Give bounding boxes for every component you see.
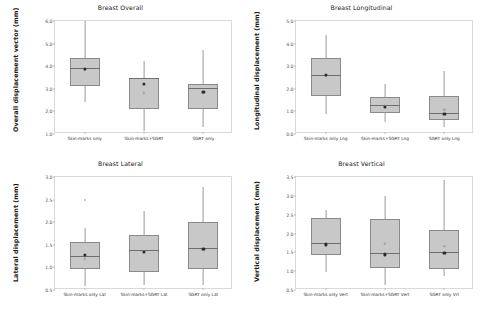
y-tick-mark: [53, 111, 55, 112]
y-tick-mark: [294, 88, 296, 89]
x-tick-label: SGRT only Vrt: [430, 292, 460, 297]
y-tick-label: 3.0: [45, 86, 52, 91]
y-tick-label: 2.0: [286, 231, 293, 236]
x-tick-label: Skin-marks+SGRT Lng: [361, 136, 409, 141]
panel-breast-longitudinal: Breast Longitudinal Longitudinal displac…: [241, 4, 482, 156]
y-tick-mark: [53, 290, 55, 291]
y-tick-label: 3.5: [286, 175, 293, 180]
x-tick-mark: [144, 288, 145, 290]
panel-breast-lateral: Breast Lateral Lateral displacement (mm)…: [0, 160, 241, 313]
y-tick-label: 3.0: [286, 64, 293, 69]
y-tick-label: 4.0: [286, 41, 293, 46]
y-tick-mark: [53, 66, 55, 67]
y-tick-label: 2.5: [286, 212, 293, 217]
y-tick-mark: [53, 267, 55, 268]
y-tick-label: 4.0: [45, 64, 52, 69]
y-tick-label: 1.5: [45, 242, 52, 247]
y-axis-label: Longitudinal displacement (mm): [253, 11, 261, 130]
panel-title: Breast Longitudinal: [241, 4, 482, 11]
plot-area: 3.02.52.01.51.00.5Skin-marks only LatSki…: [54, 176, 232, 289]
y-tick-label: 3.0: [286, 193, 293, 198]
box-plot-box: [70, 58, 100, 86]
panel-title: Breast Overall: [0, 4, 241, 11]
y-tick-mark: [53, 21, 55, 22]
box-plot-box: [311, 218, 341, 254]
x-tick-mark: [84, 288, 85, 290]
x-tick-mark: [385, 288, 386, 290]
y-tick-label: 6.0: [45, 19, 52, 24]
outlier-point: [84, 199, 86, 201]
figure-boxplot-grid: Breast Overall Overall displacement vect…: [0, 0, 482, 313]
x-tick-label: Skin-marks+SGRT: [125, 136, 164, 141]
y-tick-mark: [53, 43, 55, 44]
y-tick-label: 2.0: [286, 86, 293, 91]
median-line: [129, 78, 159, 79]
y-tick-label: 1.0: [286, 269, 293, 274]
y-tick-label: 0.0: [286, 132, 293, 137]
y-tick-mark: [53, 244, 55, 245]
y-tick-mark: [294, 66, 296, 67]
y-axis-label: Overall displacement vector (mm): [12, 8, 20, 132]
panel-title: Breast Vertical: [241, 160, 482, 167]
y-tick-mark: [294, 43, 296, 44]
x-tick-label: SGRT only: [192, 136, 214, 141]
y-tick-mark: [294, 271, 296, 272]
y-tick-mark: [294, 233, 296, 234]
x-tick-mark: [203, 132, 204, 134]
box-plot-box: [129, 235, 159, 272]
x-tick-label: SGRT only Lat: [188, 292, 218, 297]
y-tick-mark: [294, 134, 296, 135]
panel-breast-vertical: Breast Vertical Vertical displacement (m…: [241, 160, 482, 313]
y-axis-label: Lateral displacement (mm): [12, 183, 20, 282]
y-tick-mark: [294, 21, 296, 22]
x-tick-label: Skin-marks only Lat: [63, 292, 106, 297]
x-tick-label: Skin-marks only: [67, 136, 101, 141]
plot-area: 6.05.04.03.02.01.0Skin-marks onlySkin-ma…: [54, 20, 232, 133]
y-tick-label: 2.0: [45, 109, 52, 114]
x-tick-label: Skin-marks only Lng: [304, 136, 348, 141]
y-tick-mark: [294, 214, 296, 215]
x-tick-mark: [325, 132, 326, 134]
x-tick-mark: [385, 132, 386, 134]
x-tick-label: SGRT only Lng: [429, 136, 460, 141]
x-tick-mark: [84, 132, 85, 134]
y-tick-label: 5.0: [286, 19, 293, 24]
y-tick-label: 3.0: [45, 175, 52, 180]
x-tick-label: Skin-marks+SGRT Lat: [120, 292, 167, 297]
y-tick-mark: [53, 199, 55, 200]
y-tick-mark: [53, 177, 55, 178]
x-tick-label: Skin-marks only Vert: [303, 292, 348, 297]
x-tick-mark: [144, 132, 145, 134]
box-plot-box: [311, 58, 341, 96]
median-line: [188, 88, 218, 89]
y-tick-mark: [294, 252, 296, 253]
y-tick-label: 1.0: [45, 132, 52, 137]
y-tick-label: 1.5: [286, 250, 293, 255]
plot-area: 3.53.02.52.01.51.00.5Skin-marks only Ver…: [295, 176, 473, 289]
x-tick-mark: [203, 288, 204, 290]
y-tick-label: 5.0: [45, 41, 52, 46]
y-tick-label: 1.0: [45, 265, 52, 270]
y-tick-label: 2.0: [45, 220, 52, 225]
y-tick-label: 2.5: [45, 197, 52, 202]
y-tick-label: 0.5: [286, 288, 293, 293]
y-tick-mark: [294, 111, 296, 112]
x-tick-label: Skin-marks+SGRT Vert: [360, 292, 409, 297]
x-tick-mark: [444, 132, 445, 134]
y-tick-mark: [53, 222, 55, 223]
plot-area: 5.04.03.02.01.00.0Skin-marks only LngSki…: [295, 20, 473, 133]
y-tick-mark: [294, 290, 296, 291]
y-tick-label: 1.0: [286, 109, 293, 114]
box-plot-box: [188, 222, 218, 269]
panel-title: Breast Lateral: [0, 160, 241, 167]
box-plot-box: [429, 230, 459, 269]
y-tick-mark: [294, 195, 296, 196]
y-axis-label: Vertical displacement (mm): [253, 181, 261, 282]
y-tick-mark: [53, 88, 55, 89]
y-tick-label: 0.5: [45, 288, 52, 293]
panel-breast-overall: Breast Overall Overall displacement vect…: [0, 4, 241, 156]
x-tick-mark: [325, 288, 326, 290]
x-tick-mark: [444, 288, 445, 290]
y-tick-mark: [294, 177, 296, 178]
y-tick-mark: [53, 134, 55, 135]
